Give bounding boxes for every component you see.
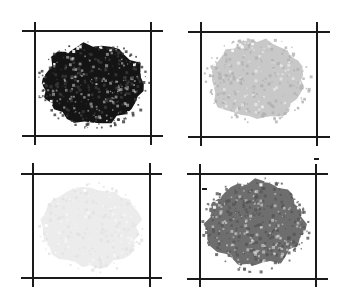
- tick-mark-1: [202, 188, 207, 190]
- blob-top-right: [204, 38, 313, 125]
- frame-top-left-bottom-line: [22, 135, 163, 137]
- frame-top-left-left-line: [34, 22, 36, 145]
- frame-bottom-left-left-line: [32, 163, 34, 287]
- tick-mark-0: [314, 158, 319, 160]
- frame-bottom-right-top-line: [187, 173, 328, 175]
- blob-bottom-right: [201, 177, 310, 273]
- blob-bottom-left: [38, 182, 143, 273]
- frame-bottom-left-top-line: [21, 173, 162, 175]
- blob-layer: [0, 0, 348, 300]
- frame-top-left-top-line: [22, 30, 163, 32]
- frame-top-left-right-line: [150, 22, 152, 145]
- frame-top-right-left-line: [200, 22, 202, 146]
- frame-top-right-right-line: [316, 22, 318, 146]
- frame-top-right-bottom-line: [188, 136, 330, 138]
- frame-bottom-right-bottom-line: [187, 278, 328, 280]
- frame-bottom-left-right-line: [149, 163, 151, 287]
- frame-bottom-right-right-line: [315, 164, 317, 287]
- frame-bottom-right-left-line: [199, 164, 201, 287]
- frame-bottom-left-bottom-line: [21, 277, 162, 279]
- blob-top-left: [37, 42, 152, 130]
- frame-top-right-top-line: [188, 31, 330, 33]
- figure-grid: [0, 0, 348, 300]
